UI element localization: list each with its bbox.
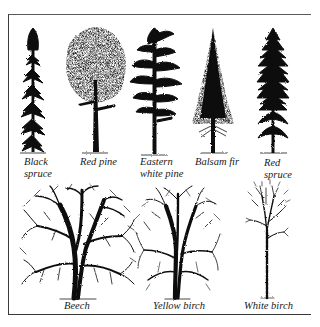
eastern-white-pine-tree-icon bbox=[130, 28, 182, 155]
label-black-spruce: Black spruce bbox=[24, 156, 52, 180]
label-line: Eastern bbox=[140, 156, 183, 168]
label-yellow-birch: Yellow birch bbox=[153, 300, 205, 312]
red-spruce-tree-icon bbox=[257, 28, 289, 153]
label-line: Red pine bbox=[80, 156, 117, 168]
label-red-spruce: Red spruce bbox=[264, 157, 292, 181]
label-white-birch: White birch bbox=[244, 300, 293, 312]
label-line: Yellow birch bbox=[153, 300, 205, 312]
label-line: spruce bbox=[264, 169, 292, 181]
balsam-fir-tree-icon bbox=[192, 28, 234, 153]
white-birch-tree-icon bbox=[246, 180, 290, 298]
label-line: White birch bbox=[244, 300, 293, 312]
label-beech: Beech bbox=[64, 300, 90, 312]
label-line: white pine bbox=[140, 168, 183, 180]
black-spruce-tree-icon bbox=[20, 28, 46, 153]
label-balsam-fir: Balsam fir bbox=[195, 156, 239, 168]
label-line: Beech bbox=[64, 300, 90, 312]
yellow-birch-tree-icon bbox=[134, 186, 220, 299]
red-pine-tree-icon bbox=[66, 27, 126, 153]
label-eastern-white-pine: Eastern white pine bbox=[140, 156, 183, 180]
label-line: Red bbox=[264, 157, 292, 169]
beech-tree-icon bbox=[20, 184, 136, 299]
label-line: Balsam fir bbox=[195, 156, 239, 168]
label-line: Black bbox=[24, 156, 52, 168]
label-line: spruce bbox=[24, 168, 52, 180]
label-red-pine: Red pine bbox=[80, 156, 117, 168]
